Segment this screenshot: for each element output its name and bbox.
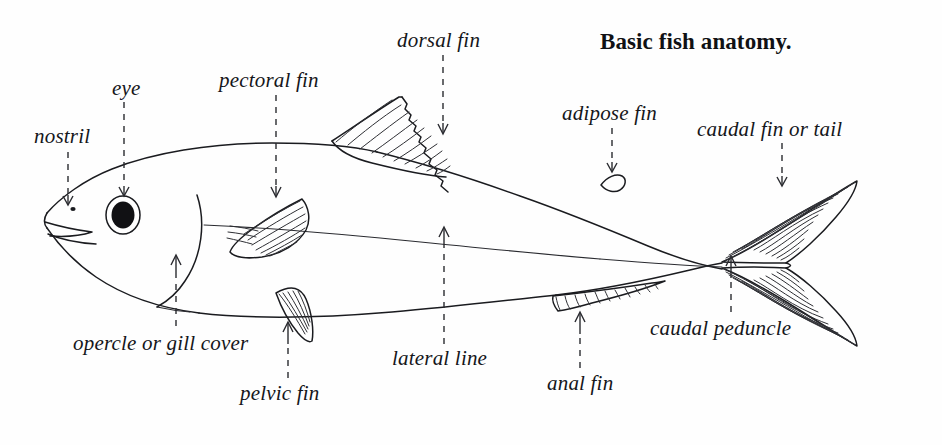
pelvic-fin <box>276 288 313 342</box>
fish-illustration: .ink { fill: none; stroke: #1a1b1f; stro… <box>0 0 942 445</box>
leader-pelvic-fin <box>283 322 293 378</box>
anal-fin-outline <box>553 281 665 311</box>
lateral-line-mark <box>204 225 722 267</box>
opercle-lower-edge <box>157 307 190 312</box>
dorsal-fin <box>332 97 450 192</box>
adipose-fin <box>601 175 625 192</box>
label-pectoral-fin: pectoral fin <box>219 70 319 91</box>
anal-fin <box>553 281 665 311</box>
pectoral-fin-rays <box>244 201 306 256</box>
nostril-mark <box>70 207 75 211</box>
leader-dorsal-fin <box>438 55 448 134</box>
label-adipose-fin: adipose fin <box>562 103 657 124</box>
leader-pectoral-fin <box>271 95 281 197</box>
snout-tip <box>44 213 47 228</box>
label-dorsal-fin: dorsal fin <box>397 30 480 51</box>
label-caudal-peduncle: caudal peduncle <box>650 318 791 339</box>
lateral-line-rear <box>600 259 722 267</box>
leader-caudal-peduncle <box>726 256 736 312</box>
dorsal-fin-serrated-edge <box>402 97 448 192</box>
caudal-fin-fork <box>786 263 791 268</box>
label-nostril: nostril <box>34 126 90 147</box>
label-caudal-fin-or-tail: caudal fin or tail <box>697 119 842 140</box>
opercle-curve <box>157 195 202 307</box>
label-anal-fin: anal fin <box>547 373 613 394</box>
leader-adipose-fin <box>607 128 617 172</box>
caudal-fin-upper-rays <box>724 182 855 261</box>
fish-body-outline <box>47 143 722 317</box>
dorsal-fin-rays <box>336 100 450 174</box>
label-eye: eye <box>112 78 141 99</box>
label-opercle-or-gill-cover: opercle or gill cover <box>73 333 248 354</box>
label-lateral-line: lateral line <box>392 348 487 369</box>
leader-caudal-fin <box>777 143 787 186</box>
pelvic-fin-outline <box>276 288 313 342</box>
dorsal-fin-leading-edge <box>332 97 402 141</box>
leader-eye <box>119 102 129 196</box>
leader-anal-fin <box>575 312 585 368</box>
leader-opercle <box>171 255 181 326</box>
figure-title: Basic fish anatomy. <box>600 29 792 55</box>
label-pelvic-fin: pelvic fin <box>240 383 320 404</box>
eye <box>106 196 140 234</box>
fish-anatomy-figure: .ink { fill: none; stroke: #1a1b1f; stro… <box>0 0 942 445</box>
